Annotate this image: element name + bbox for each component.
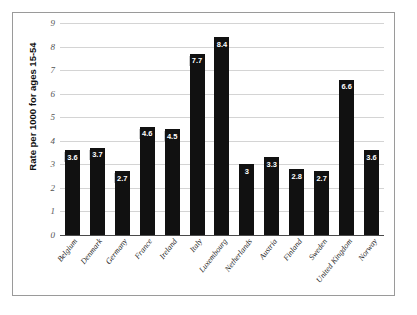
bar-value-label: 3.7 [90,150,104,160]
chart-page: Rate per 1000 for ages 15-54 0123456789 … [0,0,417,315]
x-label-slot: France [135,237,160,307]
bar[interactable]: 3.7 [90,148,105,235]
y-axis-tick-label: 2 [51,183,56,193]
bar-value-label: 3.6 [65,152,79,162]
bar-slot: 3.6 [359,23,384,235]
bar-value-label: 3.6 [364,152,378,162]
bar-value-label: 7.7 [190,56,204,66]
bar[interactable]: 4.5 [165,129,180,235]
bar-value-label: 2.7 [314,173,328,183]
x-axis-category-label: Austria [257,237,279,261]
x-label-slot: Finland [284,237,309,307]
bar-slot: 2.7 [309,23,334,235]
x-axis-category-label: Sweden [307,237,329,262]
x-label-slot: Austria [259,237,284,307]
bar[interactable]: 3.3 [264,157,279,235]
x-axis-category-label: Finland [281,237,304,263]
x-label-slot: United Kingdom [334,237,359,307]
bar[interactable]: 3 [239,164,254,235]
y-axis-tick-label: 8 [51,42,56,52]
bar-slot: 2.7 [110,23,135,235]
bar-slot: 3.7 [85,23,110,235]
bar[interactable]: 3.6 [65,150,80,235]
bar[interactable]: 3.6 [364,150,379,235]
bar[interactable]: 2.7 [314,171,329,235]
bar-slot: 4.6 [135,23,160,235]
bar-slot: 7.7 [185,23,210,235]
x-axis-category-label: Italy [188,237,204,254]
bar[interactable]: 4.6 [140,127,155,235]
bar[interactable]: 7.7 [190,54,205,235]
y-axis-tick-label: 9 [51,18,56,28]
bar-series: 3.63.72.74.64.57.78.433.32.82.76.63.6 [60,23,384,235]
x-axis-labels: BelgiumDenmarkGermanyFranceIrelandItalyL… [60,237,384,307]
x-axis-line [60,235,384,236]
y-axis-title: Rate per 1000 for ages 15-54 [27,27,38,187]
bar-slot: 3.6 [60,23,85,235]
y-axis-tick-label: 7 [51,65,56,75]
bar-slot: 3 [234,23,259,235]
bar-value-label: 2.7 [115,173,129,183]
x-axis-category-label: Ireland [158,237,179,261]
y-axis-tick-label: 0 [51,230,56,240]
bar-value-label: 4.6 [140,129,154,139]
x-axis-category-label: Norway [356,237,379,263]
bar[interactable]: 8.4 [214,37,229,235]
y-axis-tick-label: 3 [51,159,56,169]
x-axis-category-label: Belgium [56,237,80,264]
bar-value-label: 8.4 [215,39,229,49]
x-label-slot: Ireland [160,237,185,307]
bar-value-label: 4.5 [165,131,179,141]
y-axis-tick-label: 6 [51,89,56,99]
bar-value-label: 2.8 [290,171,304,181]
x-label-slot: Netherlands [234,237,259,307]
x-label-slot: Belgium [60,237,85,307]
bar-slot: 8.4 [210,23,235,235]
bar-slot: 4.5 [160,23,185,235]
x-label-slot: Germany [110,237,135,307]
bar-value-label: 3 [243,166,251,176]
bar-value-label: 3.3 [265,159,279,169]
y-axis-tick-label: 5 [51,112,56,122]
x-label-slot: Denmark [85,237,110,307]
y-axis-tick-label: 1 [51,206,56,216]
y-axis-tick-label: 4 [51,136,56,146]
chart-frame: Rate per 1000 for ages 15-54 0123456789 … [12,12,395,296]
plot-area: 0123456789 3.63.72.74.64.57.78.433.32.82… [60,23,384,235]
bar[interactable]: 2.7 [115,171,130,235]
x-label-slot: Norway [359,237,384,307]
bar-value-label: 6.6 [339,82,353,92]
x-axis-category-label: France [133,237,154,261]
bar[interactable]: 2.8 [289,169,304,235]
bar-slot: 2.8 [284,23,309,235]
bar-slot: 6.6 [334,23,359,235]
bar-slot: 3.3 [259,23,284,235]
bar[interactable]: 6.6 [339,80,354,235]
